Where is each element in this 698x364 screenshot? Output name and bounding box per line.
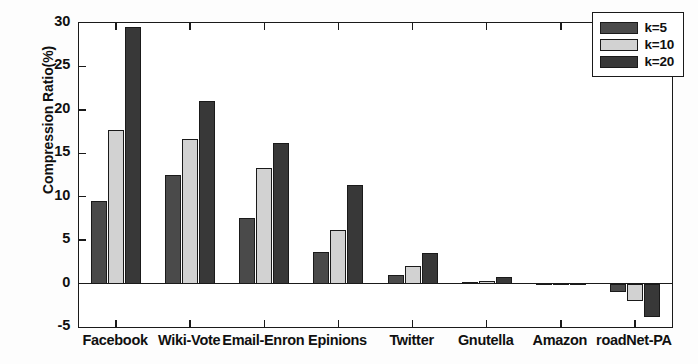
bar xyxy=(330,230,346,284)
bars-layer xyxy=(79,23,672,327)
legend-swatch-k10 xyxy=(600,39,638,51)
x-tick-label: Amazon xyxy=(533,332,588,348)
x-tick-mark xyxy=(338,320,339,327)
figure-canvas: -5051015202530FacebookWiki-VoteEmail-Enr… xyxy=(0,0,698,364)
legend-swatch-k5 xyxy=(600,22,638,34)
legend-label-k5: k=5 xyxy=(644,20,666,35)
bar xyxy=(313,252,329,283)
bar xyxy=(165,175,181,284)
x-tick-label: Epinions xyxy=(308,332,367,348)
y-tick-mark xyxy=(79,239,86,240)
x-tick-mark xyxy=(560,320,561,327)
x-tick-label: roadNet-PA xyxy=(596,332,672,348)
x-tick-mark-top xyxy=(189,23,190,30)
bar xyxy=(239,218,255,283)
bar xyxy=(91,201,107,284)
x-tick-mark-top xyxy=(338,23,339,30)
x-tick-mark-top xyxy=(486,23,487,30)
bar xyxy=(610,284,626,293)
x-tick-label: Wiki-Vote xyxy=(158,332,220,348)
y-tick-mark xyxy=(79,109,86,110)
bar xyxy=(388,275,404,284)
bar xyxy=(496,277,512,283)
bar xyxy=(125,27,141,283)
bar xyxy=(644,284,660,317)
bar xyxy=(570,283,586,285)
legend-label-k10: k=10 xyxy=(644,37,674,52)
legend-item-k5: k=5 xyxy=(600,19,674,36)
bar xyxy=(405,266,421,283)
y-axis-title: Compression Ratio(%) xyxy=(40,0,56,364)
x-tick-mark-top xyxy=(115,23,116,30)
bar xyxy=(627,284,643,301)
chart-legend: k=5 k=10 k=20 xyxy=(592,12,684,77)
bar xyxy=(422,253,438,283)
x-tick-mark xyxy=(412,320,413,327)
x-tick-mark-top xyxy=(560,23,561,30)
y-tick-mark xyxy=(79,196,86,197)
bar xyxy=(479,281,495,284)
x-tick-mark xyxy=(115,320,116,327)
y-tick-mark xyxy=(79,283,86,284)
x-tick-mark-top xyxy=(264,23,265,30)
bar xyxy=(108,130,124,284)
x-tick-mark xyxy=(264,320,265,327)
legend-label-k20: k=20 xyxy=(644,54,674,69)
plot-area xyxy=(78,22,673,328)
x-tick-mark xyxy=(486,320,487,327)
bar xyxy=(536,283,552,285)
bar xyxy=(347,185,363,283)
legend-item-k20: k=20 xyxy=(600,53,674,70)
bar xyxy=(256,168,272,284)
x-tick-label: Email-Enron xyxy=(222,332,304,348)
x-tick-mark xyxy=(634,320,635,327)
x-tick-label: Twitter xyxy=(389,332,433,348)
x-tick-mark-top xyxy=(412,23,413,30)
x-tick-mark xyxy=(189,320,190,327)
bar xyxy=(462,282,478,284)
legend-swatch-k20 xyxy=(600,56,638,68)
y-tick-mark xyxy=(79,66,86,67)
x-tick-label: Facebook xyxy=(82,332,147,348)
x-tick-label: Gnutella xyxy=(458,332,514,348)
legend-item-k10: k=10 xyxy=(600,36,674,53)
bar xyxy=(199,101,215,283)
bar xyxy=(273,143,289,284)
bar xyxy=(182,139,198,284)
y-tick-mark xyxy=(79,153,86,154)
bar xyxy=(553,283,569,285)
